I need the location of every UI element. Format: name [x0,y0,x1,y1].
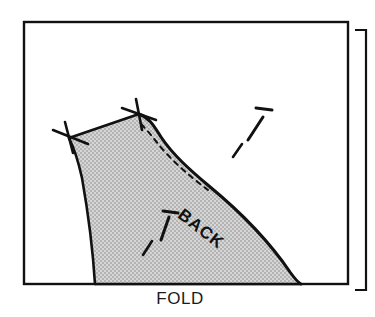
fabric-sheet-offset-outline [355,30,366,290]
pattern-drawing-svg [0,0,375,317]
fold-caption: FOLD [0,288,360,310]
pattern-diagram: BACK FOLD [0,0,375,317]
